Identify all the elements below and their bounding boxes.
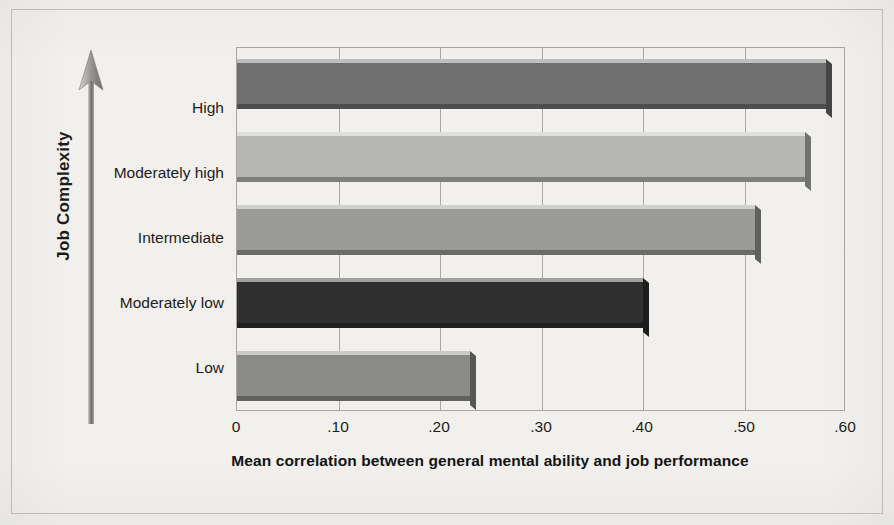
x-tick-label-.60: .60 (815, 418, 875, 436)
bar-moderately-high[interactable] (237, 132, 805, 182)
bar-moderately-low[interactable] (237, 278, 643, 328)
category-label-moderately-high: Moderately high (114, 163, 224, 183)
bar-side-face (826, 59, 832, 118)
bar-shadow-edge (237, 323, 643, 328)
bar-highlight-edge (237, 351, 470, 355)
x-tick-label-.10: .10 (308, 418, 368, 436)
bar-high[interactable] (237, 59, 826, 109)
bar-face (237, 278, 643, 328)
y-axis-title: Job Complexity (54, 86, 74, 306)
chart-figure: Job Complexity High Moderately high Inte… (0, 0, 894, 525)
bar-face (237, 59, 826, 109)
category-label-moderately-low: Moderately low (120, 293, 224, 313)
x-tick-label-.40: .40 (612, 418, 672, 436)
bar-highlight-edge (237, 278, 643, 282)
bar-highlight-edge (237, 132, 805, 136)
bar-shadow-edge (237, 250, 755, 255)
x-tick-label-.30: .30 (511, 418, 571, 436)
bar-highlight-edge (237, 59, 826, 63)
bar-shadow-edge (237, 177, 805, 182)
bar-body (237, 59, 826, 109)
bar-face (237, 132, 805, 182)
x-axis-tick-labels: 0.10.20.30.40.50.60 (236, 418, 845, 442)
x-axis-title: Mean correlation between general mental … (120, 452, 860, 470)
category-label-group: High Moderately high Intermediate Modera… (104, 62, 230, 420)
bar-side-face (470, 351, 476, 410)
bar-side-face (805, 132, 811, 191)
bar-face (237, 205, 755, 255)
bar-body (237, 132, 805, 182)
category-label-intermediate: Intermediate (138, 228, 224, 248)
bar-side-face (755, 205, 761, 264)
bar-face (237, 351, 470, 401)
x-tick-label-0: 0 (206, 418, 266, 436)
bar-shadow-edge (237, 396, 470, 401)
category-label-high: High (192, 98, 224, 118)
bar-body (237, 278, 643, 328)
bar-highlight-edge (237, 205, 755, 209)
y-axis-arrow-icon (78, 48, 104, 424)
bar-low[interactable] (237, 351, 470, 401)
bar-side-face (643, 278, 649, 337)
x-tick-label-.20: .20 (409, 418, 469, 436)
category-label-low: Low (196, 358, 224, 378)
x-tick-label-.50: .50 (714, 418, 774, 436)
bar-intermediate[interactable] (237, 205, 755, 255)
bar-body (237, 205, 755, 255)
bar-body (237, 351, 470, 401)
bar-shadow-edge (237, 104, 826, 109)
plot-area (236, 47, 845, 411)
